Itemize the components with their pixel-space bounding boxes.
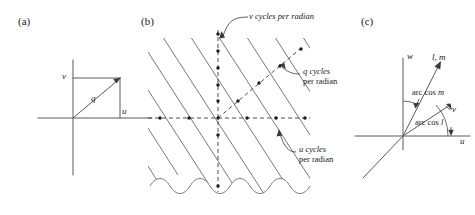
figure-root: (a) v u q xyxy=(0,0,475,215)
panel-c-axis-label-u: u xyxy=(460,136,465,146)
panel-c-angle-label-lower: arc cos l xyxy=(415,117,443,127)
panel-c-graphics xyxy=(0,0,475,215)
panel-c-vector-label-lm: l, m xyxy=(432,52,446,62)
panel-c-v-axis xyxy=(363,136,403,178)
panel-label-c: (c) xyxy=(361,15,373,27)
panel-c-axis-label-v: v xyxy=(452,104,456,114)
panel-c-angle-label-upper: arc cos m xyxy=(412,87,444,97)
panel-c-axis-label-w: w xyxy=(407,51,413,61)
